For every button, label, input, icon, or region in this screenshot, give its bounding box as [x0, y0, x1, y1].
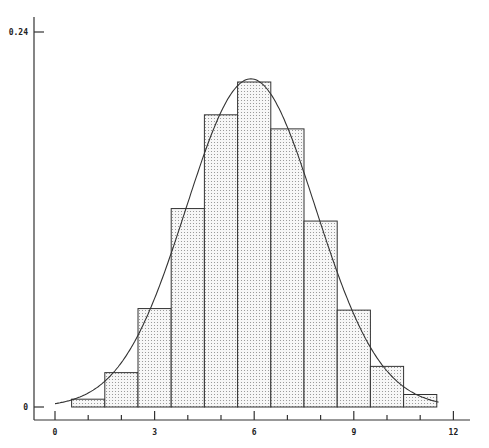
x-axis-ticks: 036912	[53, 411, 459, 437]
histogram-bar	[304, 221, 337, 407]
histogram-bar	[105, 373, 138, 407]
histogram-bar	[337, 310, 370, 407]
histogram-bars	[72, 82, 437, 407]
x-tick-label: 0	[53, 428, 58, 437]
histogram-bar	[238, 82, 271, 407]
histogram-bar	[370, 366, 403, 407]
y-axis-ticks: 00.24	[9, 28, 44, 412]
histogram-bar	[204, 115, 237, 407]
y-tick-label: 0.24	[9, 28, 28, 37]
histogram-bar	[138, 309, 171, 407]
histogram-chart: 036912 00.24	[0, 0, 489, 448]
y-tick-label: 0	[23, 403, 28, 412]
histogram-bar	[72, 399, 105, 407]
x-tick-label: 6	[252, 428, 257, 437]
x-tick-label: 9	[351, 428, 356, 437]
histogram-bar	[271, 129, 304, 407]
x-tick-label: 3	[152, 428, 157, 437]
x-tick-label: 12	[449, 428, 459, 437]
